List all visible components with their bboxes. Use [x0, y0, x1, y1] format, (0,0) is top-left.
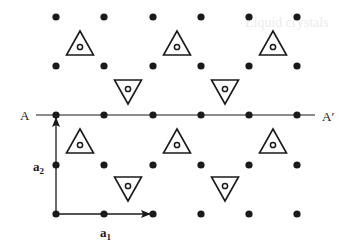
- lattice-dot: [197, 13, 204, 20]
- lattice-dot: [197, 62, 204, 69]
- triangle-up-motif: [67, 31, 94, 55]
- upward-triangle-motifs: [67, 31, 287, 153]
- lattice-dot: [100, 161, 107, 168]
- lattice-dot: [52, 62, 59, 69]
- label-a2: a2: [33, 159, 45, 176]
- triangle-down-motif: [115, 80, 142, 104]
- triangle-down-motif: [115, 177, 142, 201]
- downward-triangle-motifs: [115, 80, 239, 201]
- ring-icon: [125, 183, 130, 188]
- lattice-dot: [293, 111, 300, 118]
- triangle-up-motif: [164, 31, 191, 55]
- lattice-dot: [100, 210, 107, 217]
- triangle-up-motif: [260, 31, 287, 55]
- label-a: A: [20, 108, 30, 123]
- triangle-up-motif: [164, 129, 191, 153]
- ring-icon: [77, 44, 82, 49]
- lattice-dot: [293, 210, 300, 217]
- ring-icon: [77, 142, 82, 147]
- lattice-dot: [100, 13, 107, 20]
- lattice-dot: [293, 161, 300, 168]
- label-a1-subscript: 1: [107, 232, 112, 242]
- lattice-dot: [245, 13, 252, 20]
- label-a-prime: A′: [322, 109, 334, 124]
- triangle-down-motif: [212, 80, 239, 104]
- lattice-dot: [245, 210, 252, 217]
- ring-icon: [174, 142, 179, 147]
- ring-icon: [270, 44, 275, 49]
- lattice-dot: [245, 62, 252, 69]
- ring-icon: [222, 86, 227, 91]
- lattice-dot: [52, 210, 59, 217]
- lattice-dot: [293, 13, 300, 20]
- ring-icon: [174, 44, 179, 49]
- lattice-diagram: A A′ a2 a1: [0, 0, 357, 251]
- lattice-dot: [149, 62, 156, 69]
- lattice-dot: [52, 13, 59, 20]
- lattice-dot: [100, 62, 107, 69]
- lattice-dot: [149, 13, 156, 20]
- triangle-up-motif: [260, 129, 287, 153]
- lattice-dot: [52, 111, 59, 118]
- lattice-dot: [149, 111, 156, 118]
- ring-icon: [125, 86, 130, 91]
- triangle-up-motif: [67, 129, 94, 153]
- ring-icon: [222, 183, 227, 188]
- triangle-down-motif: [212, 177, 239, 201]
- label-a2-subscript: 2: [40, 166, 45, 176]
- lattice-dot: [293, 62, 300, 69]
- lattice-dot: [245, 111, 252, 118]
- lattice-dot: [100, 111, 107, 118]
- lattice-dot: [149, 210, 156, 217]
- ring-icon: [270, 142, 275, 147]
- lattice-dot: [197, 161, 204, 168]
- lattice-dot: [197, 210, 204, 217]
- lattice-dot: [149, 161, 156, 168]
- lattice-dot: [197, 111, 204, 118]
- lattice-dot: [52, 161, 59, 168]
- lattice-dot: [245, 161, 252, 168]
- label-a1: a1: [100, 225, 112, 242]
